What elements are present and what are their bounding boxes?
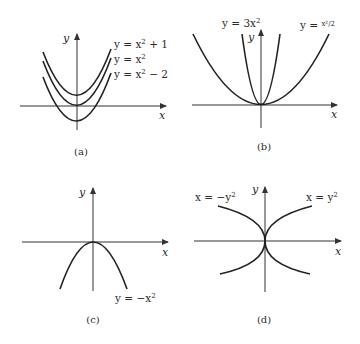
- x-axis-label: x: [331, 108, 338, 121]
- caption-a: (a): [74, 146, 88, 157]
- panel-b: y x y = 3x2 y = x²/2 (b): [192, 17, 338, 152]
- curve-x-eq-y2: [265, 206, 312, 274]
- x-axis-label: x: [335, 245, 342, 258]
- label-x2-plus-1: y = x2 + 1: [113, 38, 168, 50]
- label-x2-minus-2: y = x2 − 2: [113, 68, 168, 80]
- caption-c: (c): [86, 314, 100, 325]
- label-x-eq-neg-y2: x = −y2: [195, 191, 236, 203]
- y-axis-label: y: [78, 186, 86, 199]
- label-x2: y = x2: [113, 53, 146, 65]
- y-axis-label: y: [247, 31, 255, 44]
- label-x2-over-2: y = x²/2: [299, 19, 335, 31]
- label-3x2: y = 3x2: [221, 17, 260, 29]
- y-axis-label: y: [62, 32, 70, 45]
- label-neg-x2: y = −x2: [114, 292, 156, 304]
- label-x-eq-y2: x = y2: [306, 191, 338, 203]
- panel-d: y x x = −y2 x = y2 (d): [194, 183, 342, 325]
- caption-d: (d): [257, 314, 271, 325]
- caption-b: (b): [257, 141, 271, 152]
- figure: y x y = x2 + 1 y = x2 y = x2 − 2 (a) y x…: [0, 0, 360, 344]
- x-axis-label: x: [162, 246, 169, 259]
- panel-c: y x y = −x2 (c): [22, 186, 169, 325]
- panel-a: y x y = x2 + 1 y = x2 y = x2 − 2 (a): [20, 32, 168, 157]
- curve-x-eq-neg-y2: [218, 206, 265, 274]
- y-axis-label: y: [251, 183, 259, 196]
- x-axis-label: x: [159, 109, 166, 122]
